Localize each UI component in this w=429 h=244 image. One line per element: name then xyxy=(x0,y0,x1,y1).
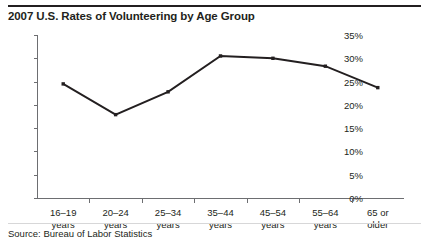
x-tick-label-line: 16–19 xyxy=(50,207,76,219)
volunteering-rate-series xyxy=(37,35,404,199)
series-marker xyxy=(376,86,379,89)
x-tick-label: 35–44years xyxy=(207,207,233,230)
x-tick-label-line: 45–54 xyxy=(260,207,286,219)
x-tick-label-line: years xyxy=(312,219,338,231)
x-tick-label: 65 orolder xyxy=(367,207,389,230)
series-markers xyxy=(62,54,380,116)
source-note: Source: Bureau of Labor Statistics xyxy=(8,228,152,239)
title-top-rule xyxy=(8,5,421,7)
source-separator-rule xyxy=(8,223,421,224)
x-tick-label-line: 25–34 xyxy=(155,207,181,219)
series-marker xyxy=(271,57,274,60)
x-tick-label: 16–19years xyxy=(50,207,76,230)
x-tick-label: 20–24years xyxy=(102,207,128,230)
series-marker xyxy=(114,113,117,116)
series-line xyxy=(63,56,378,115)
x-tick-label: 55–64years xyxy=(312,207,338,230)
plot-area: 35%30%25%20%15%10%5%0% 16–19years20–24ye… xyxy=(37,35,404,198)
chart-title: 2007 U.S. Rates of Volunteering by Age G… xyxy=(8,10,421,22)
x-tick-label-line: 55–64 xyxy=(312,207,338,219)
chart-figure: 2007 U.S. Rates of Volunteering by Age G… xyxy=(0,0,429,244)
x-tick-label-line: 20–24 xyxy=(102,207,128,219)
series-marker xyxy=(166,90,169,93)
series-marker xyxy=(324,65,327,68)
x-tick-label-line: 65 or xyxy=(367,207,389,219)
series-marker xyxy=(219,54,222,57)
x-tick-label-line: years xyxy=(260,219,286,231)
series-marker xyxy=(62,82,65,85)
x-tick-label-line: older xyxy=(367,219,389,231)
x-tick-label-line: years xyxy=(155,219,181,231)
x-tick-label-line: 35–44 xyxy=(207,207,233,219)
x-tick-label: 45–54years xyxy=(260,207,286,230)
x-tick-label-line: years xyxy=(207,219,233,231)
x-tick-label: 25–34years xyxy=(155,207,181,230)
